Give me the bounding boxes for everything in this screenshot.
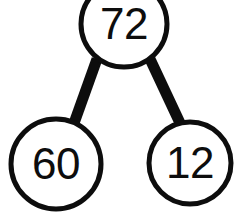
edge-root-to-left-child [73,59,97,126]
tree-node-root[interactable]: 72 [81,0,167,67]
tree-svg-canvas: 72 60 12 [0,0,250,218]
node-label-right-child: 12 [166,138,214,187]
node-label-root: 72 [100,0,148,48]
binary-tree-diagram: 72 60 12 [0,0,250,218]
edge-root-to-right-child [150,59,180,123]
tree-node-left-child[interactable]: 60 [11,119,101,209]
tree-node-right-child[interactable]: 12 [149,122,231,204]
node-label-left-child: 60 [32,139,80,188]
